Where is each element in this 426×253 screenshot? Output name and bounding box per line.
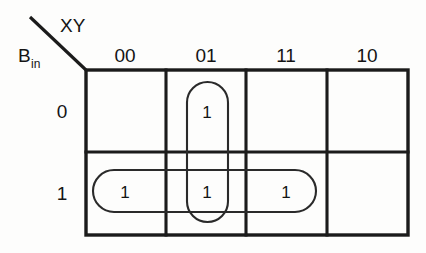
row-header-0: 0 [57,101,68,122]
karnaugh-map-figure: XY B in 00 01 11 10 0 1 1 1 1 1 [0,0,426,253]
row-variable-label-subscript: in [31,57,40,71]
kmap-canvas: XY B in 00 01 11 10 0 1 1 1 1 1 [0,0,426,253]
cell-value-r1-c00: 1 [120,183,129,202]
column-variable-label: XY [60,15,86,36]
column-header-11: 11 [276,45,296,66]
cell-value-r1-c11: 1 [281,183,290,202]
row-variable-label: B [18,45,31,66]
row-header-1: 1 [57,183,68,204]
column-header-00: 00 [114,45,135,66]
column-header-01: 01 [195,45,216,66]
column-header-10: 10 [356,45,377,66]
cell-value-r0-c01: 1 [202,103,211,122]
cell-value-r1-c01: 1 [202,183,211,202]
